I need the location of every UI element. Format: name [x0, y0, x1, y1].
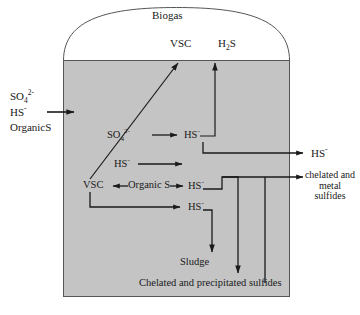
inlet-bisulfide-label: HS- [10, 105, 27, 118]
bisulfide-2-charge: - [201, 178, 203, 186]
hs-effluent-label: HS- [311, 146, 328, 159]
bisulfide-product-3-label: HS- [188, 200, 204, 212]
h2s-gas-label: H2S [218, 38, 236, 52]
organic-s-species-label: Organic S [128, 179, 170, 190]
sulfate-charge: 2- [124, 127, 130, 135]
hs-effluent-base: HS [311, 147, 325, 159]
bisulfide-product-2-label: HS- [188, 179, 204, 191]
h2s-tail: S [230, 37, 236, 49]
bisulfide-1-charge: - [197, 127, 199, 135]
inlet-organic-s-label: OrganicS [10, 122, 51, 134]
inlet-sulfate-label: SO42- [10, 89, 34, 105]
bisulfide-3-charge: - [201, 199, 203, 207]
diagram-canvas: Biogas VSC H2S SO42- HS- OrganicS SO42- … [0, 0, 360, 315]
bisulfide-transfer-label: HS- [114, 157, 130, 169]
inlet-sulfate-charge: 2- [28, 88, 34, 97]
inlet-bisulfide-charge: - [24, 104, 27, 113]
inlet-bisulfide-base: HS [10, 106, 24, 118]
vsc-species-label: VSC [83, 179, 103, 190]
vsc-gas-label: VSC [170, 38, 191, 50]
chelated-metal-sulfides-label: chelated andmetalsulfides [300, 170, 360, 202]
bisulfide-transfer-charge: - [127, 156, 129, 164]
bisulfide-transfer-base: HS [114, 158, 127, 169]
sulfate-species-label: SO42- [107, 128, 130, 143]
sulfate-base: SO [107, 129, 120, 140]
precipitated-sulfides-label: Chelated and precipitated sulfides [139, 277, 282, 288]
hs-effluent-charge: - [325, 145, 328, 154]
chelated-line-1: chelated and [305, 169, 355, 180]
biogas-label: Biogas [152, 10, 183, 22]
chelated-line-2: metal [319, 180, 341, 191]
bisulfide-3-base: HS [188, 201, 201, 212]
chelated-line-3: sulfides [314, 190, 345, 201]
bisulfide-2-base: HS [188, 180, 201, 191]
bisulfide-1-base: HS [184, 129, 197, 140]
sludge-label: Sludge [180, 256, 209, 267]
h2s-base: H [218, 37, 226, 49]
inlet-sulfate-base: SO [10, 90, 24, 102]
sulfate-subscript: 4 [120, 135, 124, 143]
bisulfide-product-1-label: HS- [184, 128, 200, 140]
